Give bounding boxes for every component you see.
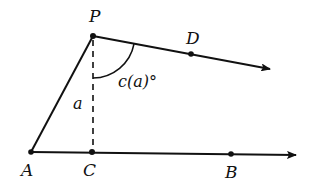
label-d: D <box>185 28 200 48</box>
point-b <box>228 151 234 157</box>
label-b: B <box>224 162 238 182</box>
ray-ab <box>31 152 296 155</box>
label-angle: c(a)° <box>118 72 157 91</box>
label-c: C <box>83 160 96 180</box>
ray-pd <box>93 36 270 69</box>
point-p <box>90 33 96 39</box>
point-a <box>28 149 34 155</box>
label-p: P <box>88 6 101 26</box>
point-c <box>89 149 95 155</box>
label-height-a: a <box>73 94 83 113</box>
geometry-diagram: P D A C B a c(a)° <box>0 0 314 190</box>
label-a: A <box>19 160 33 180</box>
point-d <box>188 51 194 57</box>
segment-ap <box>31 36 93 152</box>
